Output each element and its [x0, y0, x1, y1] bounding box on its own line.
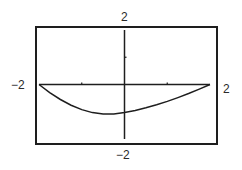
- x-max-label: 2: [223, 83, 230, 95]
- plot-area: [0, 0, 242, 170]
- viewing-window-frame: [36, 27, 217, 144]
- y-max-label: 2: [121, 11, 128, 23]
- y-min-label: −2: [116, 149, 130, 161]
- x-min-label: −2: [11, 79, 25, 91]
